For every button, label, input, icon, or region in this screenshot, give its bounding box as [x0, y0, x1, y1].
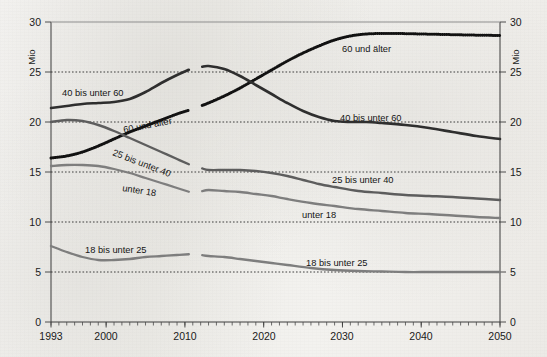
series-label-40-60-left: 40 bis unter 60	[62, 88, 124, 98]
y-label-15-left: 15	[29, 166, 41, 178]
series-label-unter-18-right: unter 18	[302, 210, 336, 220]
y-label-0-left: 0	[35, 316, 41, 328]
y-label-20-left: 20	[29, 116, 41, 128]
series-label-40-60-right: 40 bis unter 60	[340, 113, 402, 123]
y-label-25-left: 25	[29, 66, 41, 78]
y-label-30-right: 30	[510, 16, 522, 28]
x-label-2020: 2020	[252, 330, 276, 342]
y-unit-right: Mio	[510, 49, 521, 64]
x-minor-ticks	[51, 322, 500, 326]
x-label-2030: 2030	[330, 330, 354, 342]
x-label-2010: 2010	[173, 330, 197, 342]
y-label-10-left: 10	[29, 216, 41, 228]
population-line-chart: 30 25 20 15 10 5 0 30 25 20 15 10 5 0 Mi…	[0, 0, 547, 357]
y-label-0-right: 0	[510, 316, 516, 328]
y-label-5-left: 5	[35, 266, 41, 278]
series-label-60-plus-left: 60 und älter	[122, 116, 172, 135]
x-label-2040: 2040	[409, 330, 433, 342]
x-label-2050: 2050	[488, 330, 512, 342]
series-label-25-40-right: 25 bis unter 40	[332, 175, 394, 185]
y-unit-left: Mio	[26, 49, 37, 64]
y-ticks-right	[500, 22, 506, 322]
series-label-unter-18-left: unter 18	[122, 183, 157, 198]
x-label-2000: 2000	[94, 330, 118, 342]
y-label-10-right: 10	[510, 216, 522, 228]
y-label-5-right: 5	[510, 266, 516, 278]
series-label-18-25-left: 18 bis unter 25	[85, 245, 147, 255]
y-label-15-right: 15	[510, 166, 522, 178]
y-ticks-left	[45, 22, 51, 322]
series-label-18-25-right: 18 bis unter 25	[306, 258, 368, 268]
series-line-3-seg-projection	[202, 190, 500, 218]
x-major-ticks	[51, 322, 500, 328]
y-label-30-left: 30	[29, 16, 41, 28]
series-label-60-plus-right: 60 und älter	[342, 44, 391, 54]
y-label-25-right: 25	[510, 66, 522, 78]
x-label-1993: 1993	[39, 330, 63, 342]
series-line-1-seg-projection	[202, 66, 500, 139]
y-label-20-right: 20	[510, 116, 522, 128]
